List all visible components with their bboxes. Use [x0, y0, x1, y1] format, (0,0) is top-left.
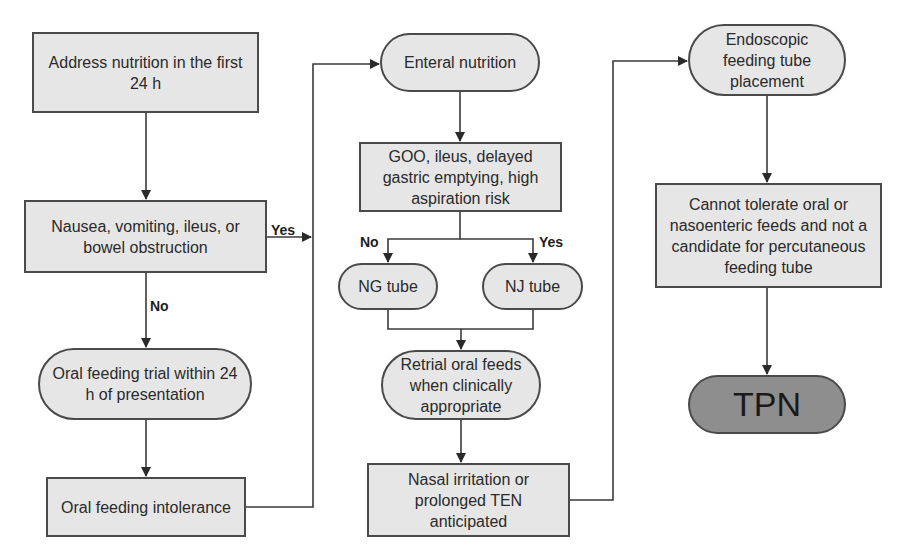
node-enteral-nutrition: Enteral nutrition [380, 33, 540, 92]
node-address-nutrition: Address nutrition in the first 24 h [32, 32, 259, 113]
node-nasal-irritation: Nasal irritation or prolonged TEN antici… [367, 463, 570, 537]
edge-label-ng-no: No [360, 234, 379, 250]
node-ng-tube: NG tube [338, 263, 438, 310]
node-nausea-decision: Nausea, vomiting, ileus, or bowel obstru… [24, 200, 267, 273]
node-goo-decision: GOO, ileus, delayed gastric emptying, hi… [359, 142, 562, 212]
node-nj-tube: NJ tube [482, 263, 583, 310]
node-oral-feeding-intolerance: Oral feeding intolerance [46, 477, 246, 537]
node-tpn: TPN [688, 375, 846, 434]
edge-label-nj-yes: Yes [539, 234, 563, 250]
edge-label-no: No [150, 298, 169, 314]
node-oral-feeding-trial: Oral feeding trial within 24 h of presen… [38, 348, 252, 420]
node-retrial-oral-feeds: Retrial oral feeds when clinically appro… [381, 350, 541, 420]
node-endoscopic-placement: Endoscopic feeding tube placement [688, 24, 846, 96]
edge-label-yes: Yes [271, 222, 295, 238]
node-cannot-tolerate: Cannot tolerate oral or nasoenteric feed… [655, 183, 882, 288]
